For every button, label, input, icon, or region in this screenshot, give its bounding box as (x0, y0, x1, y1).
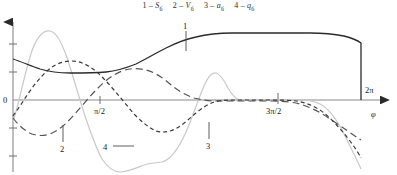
x-axis-label: φ (371, 109, 376, 119)
figure-container: 1 – Sб2 – Vб3 – aб4 – qб (0, 0, 397, 175)
x-axis-ticks (100, 93, 278, 104)
curve-label-1: 1 (183, 21, 187, 31)
plot-svg: 0 π/2 3π/2 2π φ 1 2 4 3 (0, 0, 397, 175)
origin-label: 0 (3, 95, 7, 105)
curve-3-path (13, 61, 361, 158)
x-tick-label-3pi-half: 3π/2 (266, 106, 281, 116)
x-tick-label-2pi: 2π (365, 85, 374, 95)
curve-4-path (13, 31, 361, 172)
curve-label-2: 2 (60, 144, 64, 154)
curve-label-3: 3 (206, 141, 210, 151)
curve-1-path (13, 33, 361, 100)
x-tick-label-pi-half: π/2 (94, 106, 105, 116)
curve-label-4: 4 (103, 142, 108, 152)
